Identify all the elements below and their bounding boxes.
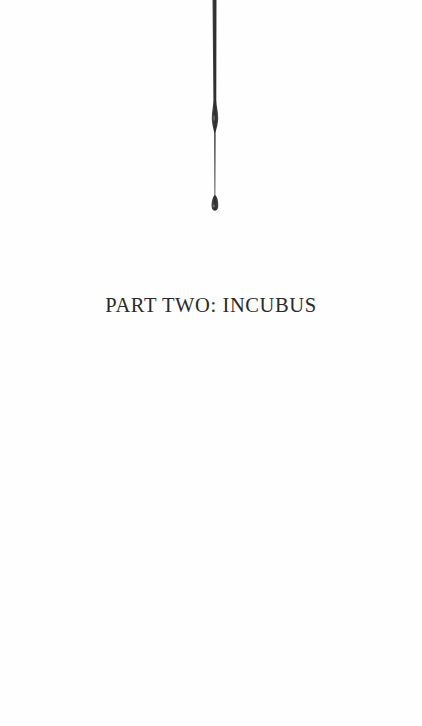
- ink-drip-icon: [200, 0, 230, 220]
- part-title: PART TWO: INCUBUS: [0, 294, 422, 317]
- book-page: PART TWO: INCUBUS: [0, 0, 422, 726]
